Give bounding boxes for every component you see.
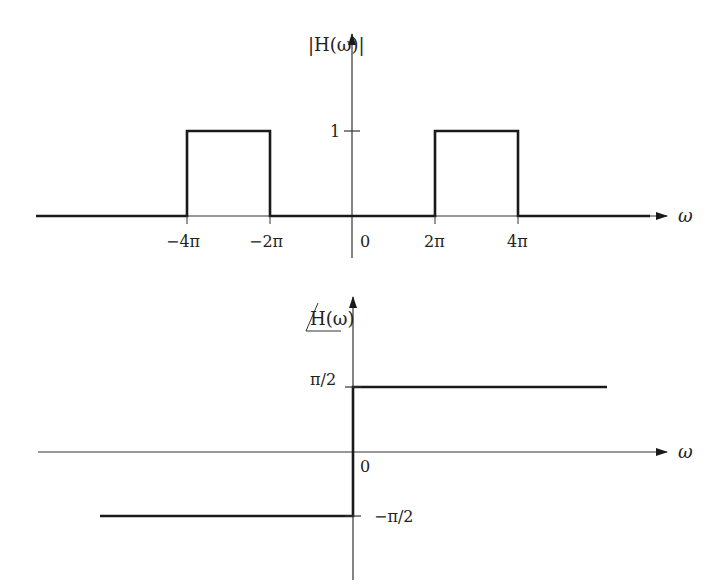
phase-y-tick-label-pi-over-2: π/2 [310,370,336,389]
x-tick-label-2pi: 2π [424,232,445,251]
x-tick-label-minus-4pi: −4π [166,232,200,251]
phase-y-tick-label-minus-pi-over-2: −π/2 [374,507,414,526]
phase-origin-label: 0 [360,457,370,476]
phase-y-label: H(ω) [310,308,354,329]
phase-plot: H(ω) ω π/2 0 −π/2 [38,297,693,580]
phase-x-label: ω [678,441,693,462]
x-tick-label-0: 0 [360,232,370,251]
magnitude-y-label: |H(ω)| [308,34,365,56]
x-tick-label-4pi: 4π [507,232,528,251]
x-tick-label-minus-2pi: −2π [249,232,283,251]
magnitude-y-tick-label: 1 [330,122,340,141]
magnitude-plot: |H(ω)| ω 1 −4π −2π 0 2π 4π [36,34,693,258]
magnitude-curve [36,131,650,216]
filter-response-diagram: |H(ω)| ω 1 −4π −2π 0 2π 4π H(ω) ω π/2 0 … [0,0,721,587]
magnitude-x-label: ω [678,205,693,226]
